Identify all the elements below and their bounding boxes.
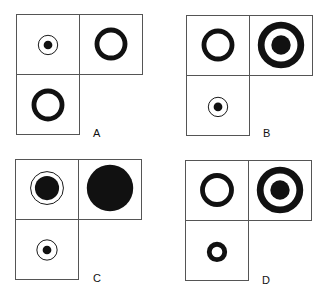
thick-ring-icon: [17, 75, 79, 134]
cell-top-left: [15, 159, 79, 220]
option-label: B: [263, 127, 270, 139]
cell-bottom-left: [16, 74, 80, 135]
cell-bottom-left: [15, 219, 79, 280]
target-icon: [249, 161, 311, 220]
option-label: D: [262, 274, 270, 286]
cell-top-left: [186, 15, 250, 76]
small-thick-ring-icon: [186, 221, 248, 280]
cell-top-left: [16, 14, 80, 75]
cell-bottom-left: [185, 220, 249, 281]
cell-top-right: [248, 160, 312, 221]
small-dot-in-thin-ring-icon: [17, 15, 79, 74]
option-label: C: [93, 272, 101, 284]
cell-top-right: [78, 159, 142, 220]
target-icon: [250, 16, 312, 75]
thick-ring-icon: [187, 16, 249, 75]
large-filled-circle-icon: [79, 160, 141, 219]
cell-top-right: [249, 15, 313, 76]
small-dot-in-thin-ring-icon: [187, 76, 249, 135]
option-label: A: [93, 127, 100, 139]
cell-top-left: [185, 160, 249, 221]
thick-ring-icon: [186, 161, 248, 220]
thick-ring-icon: [80, 15, 142, 74]
small-dot-in-thin-ring-icon: [16, 220, 78, 279]
cell-top-right: [79, 14, 143, 75]
cell-bottom-left: [186, 75, 250, 136]
large-dot-in-thin-ring-icon: [16, 160, 78, 219]
